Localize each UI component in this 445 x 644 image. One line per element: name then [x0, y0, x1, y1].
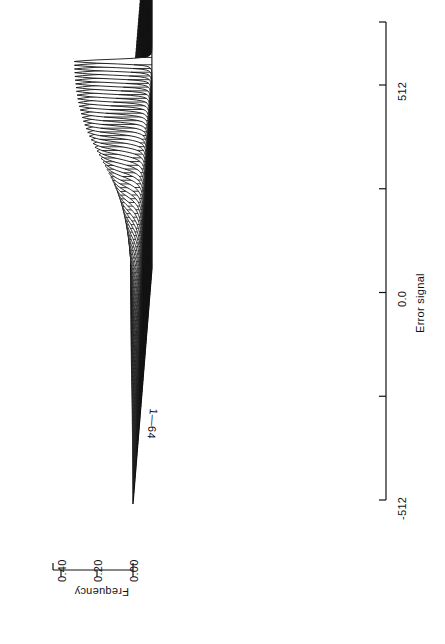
error-tick-minus512: -512 — [396, 497, 408, 520]
frequency-tick-020: 0.20 — [92, 559, 104, 582]
error-tick-0: 0.0 — [396, 290, 408, 306]
trace-group — [74, 0, 152, 504]
waterfall-plot — [0, 0, 445, 644]
error-tick-512: 512 — [396, 82, 408, 101]
waterfall-figure: 5120.0-512Error signal0.000.200.40Freque… — [0, 0, 445, 644]
frequency-tick-000: 0.00 — [128, 559, 140, 582]
error-signal-axis-label: Error signal — [414, 273, 426, 333]
error-signal-axis — [379, 22, 386, 500]
frequency-axis-label: Frequency — [74, 586, 129, 598]
frequency-tick-040: 0.40 — [56, 559, 68, 582]
